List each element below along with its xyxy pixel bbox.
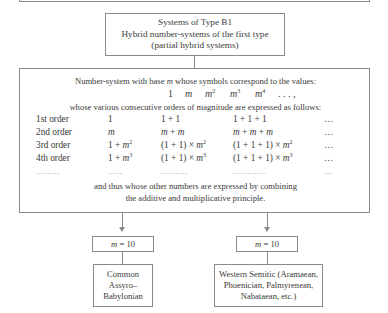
connector-right — [267, 252, 268, 264]
orders-intro-text: whose various consecutive orders of magn… — [20, 102, 371, 112]
left-result-line-3: Babylonian — [103, 291, 143, 302]
order-cell: ..... — [108, 166, 123, 177]
assyro-babylonian-box: Common Assyro– Babylonian — [93, 264, 153, 307]
order-cell: m + m — [161, 127, 184, 138]
order-cell: 1 + m2 — [108, 140, 132, 151]
order-label: 2nd order — [36, 127, 72, 138]
order-label: 3rd order — [36, 140, 70, 151]
arrow-down-icon — [264, 227, 270, 232]
outro-line-2: the additive and multiplicative principl… — [20, 193, 371, 203]
left-result-line-1: Common — [103, 269, 143, 280]
order-cell: … — [324, 140, 333, 151]
title-line-2: Hybrid number-systems of the first type — [106, 29, 284, 41]
type-b1-title-box: Systems of Type B1 Hybrid number-systems… — [105, 13, 285, 56]
left-base-box: m = 10 — [92, 236, 154, 252]
outro-line-1: and thus whose other numbers are express… — [20, 181, 371, 191]
right-base-box: m = 10 — [236, 236, 298, 252]
right-base-label: m = 10 — [255, 239, 279, 250]
intro-text: Number-system with base m whose symbols … — [20, 76, 371, 86]
order-cell: 1 + 1 — [161, 114, 180, 125]
previous-box-fragment — [19, 0, 370, 2]
title-line-3: (partial hybrid systems) — [106, 40, 284, 52]
western-semitic-box: Western Semitic (Aramaean, Phoenician, P… — [214, 264, 323, 307]
title-line-1: Systems of Type B1 — [106, 17, 284, 29]
order-cell: … — [324, 166, 332, 177]
order-label: 1st order — [36, 114, 69, 125]
order-cell: m — [108, 127, 115, 138]
order-cell: … — [324, 114, 333, 125]
order-cell: ......... — [161, 166, 188, 177]
order-cell: (1 + 1 + 1) × m2 — [233, 140, 293, 151]
number-system-description-box: Number-system with base m whose symbols … — [19, 68, 370, 213]
order-cell: (1 + 1) × m2 — [161, 140, 206, 151]
order-cell: 1 + m3 — [108, 153, 132, 164]
left-result-line-2: Assyro– — [103, 280, 143, 291]
order-label: 4th order — [36, 153, 70, 164]
order-label: ........ — [36, 166, 60, 177]
order-cell: 1 + 1 + 1 — [233, 114, 267, 125]
connector-title-main — [194, 56, 195, 68]
order-cell: (1 + 1 + 1) × m3 — [233, 153, 293, 164]
left-base-label: m = 10 — [111, 239, 135, 250]
order-cell: 1 — [108, 114, 113, 125]
right-result-line-2: Phoenician, Palmyrenean, — [219, 280, 318, 291]
order-cell: ........... — [233, 166, 266, 177]
connector-left — [122, 252, 123, 264]
order-cell: (1 + 1) × m3 — [161, 153, 206, 164]
right-result-line-1: Western Semitic (Aramaean, — [219, 269, 318, 280]
right-result-line-3: Nabataean, etc.) — [219, 291, 318, 302]
arrow-down-icon — [119, 227, 125, 232]
order-cell: … — [324, 127, 333, 138]
order-cell: m + m + m — [233, 127, 273, 138]
order-cell: … — [324, 153, 333, 164]
